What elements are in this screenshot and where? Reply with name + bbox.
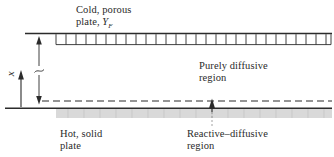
gap-dimension-arrow <box>35 36 45 105</box>
x-axis-label: x <box>5 71 17 76</box>
reactive-diffusive-label-line1: Reactive–diffusive <box>187 128 268 139</box>
diagram-vector-layer <box>0 0 334 157</box>
hot-plate-label-line1: Hot, solid <box>60 128 102 139</box>
porous-plate-hatching <box>56 34 331 44</box>
cold-plate-label-line1: Cold, porous <box>76 4 131 15</box>
hot-plate-label-line2: plate <box>60 140 81 151</box>
diffusion-flame-diagram: Cold, porousplate, YF Hot, solidplate Pu… <box>0 0 334 157</box>
reactive-diffusive-label-line2: region <box>187 140 214 151</box>
fuel-mass-fraction-subscript: F <box>108 22 112 30</box>
hot-plate-label: Hot, solidplate <box>60 128 102 151</box>
purely-diffusive-region-label: Purely diffusiveregion <box>199 60 268 83</box>
hot-solid-plate-group <box>5 108 332 118</box>
purely-diffusive-label-line2: region <box>199 72 226 83</box>
x-axis-arrow <box>18 70 24 107</box>
cold-plate-label-line2-prefix: plate, <box>76 16 102 27</box>
purely-diffusive-label-line1: Purely diffusive <box>199 60 268 71</box>
cold-porous-plate-group <box>25 34 332 45</box>
solid-plate-body <box>56 109 332 118</box>
reactive-diffusive-region-label: Reactive–diffusiveregion <box>187 128 268 151</box>
cold-plate-label: Cold, porousplate, YF <box>76 4 131 27</box>
